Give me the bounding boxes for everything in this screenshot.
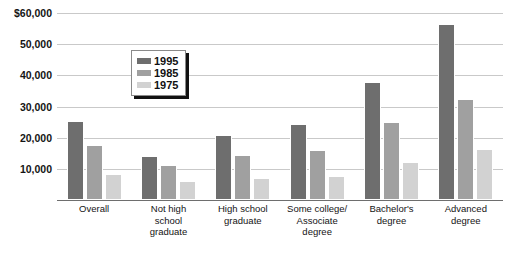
x-axis-line <box>57 200 503 201</box>
bar-1985 <box>457 99 474 200</box>
x-axis-tick-label: Not highschoolgraduate <box>131 203 205 238</box>
legend-item: 1985 <box>137 67 178 79</box>
bar-group <box>206 13 280 200</box>
bar-1985 <box>234 155 251 200</box>
legend-swatch-icon <box>137 70 151 76</box>
legend-item-label: 1985 <box>154 67 178 79</box>
bar-1975 <box>402 162 419 200</box>
bar-groups <box>57 13 503 200</box>
bar-group <box>57 13 131 200</box>
x-axis-tick-label: High schoolgraduate <box>206 203 280 238</box>
y-axis-tick-label: 20,000 <box>0 132 52 144</box>
bar-group <box>131 13 205 200</box>
legend-item-label: 1995 <box>154 55 178 67</box>
cropped-title <box>0 0 510 6</box>
bar-set <box>429 13 503 200</box>
bar-1995 <box>67 121 84 200</box>
bar-1985 <box>160 165 177 200</box>
legend-box: 199519851975 <box>131 50 186 96</box>
y-axis-tick-label: $60,000 <box>0 7 52 19</box>
legend-swatch-icon <box>137 58 151 64</box>
plot-area <box>57 13 503 200</box>
legend-item: 1995 <box>137 55 178 67</box>
x-axis-tick-label: Overall <box>57 203 131 238</box>
bar-1975 <box>105 174 122 200</box>
x-axis-tick-label: Some college/Associatedegree <box>280 203 354 238</box>
bar-chart: $60,00050,00040,00030,00020,00010,000 Ov… <box>0 0 510 255</box>
bar-1975 <box>179 181 196 200</box>
legend-item: 1975 <box>137 79 178 91</box>
y-axis-tick-label: 30,000 <box>0 101 52 113</box>
bar-set <box>280 13 354 200</box>
bar-1985 <box>383 122 400 200</box>
bar-1995 <box>141 156 158 200</box>
bar-1985 <box>86 145 103 200</box>
bar-1995 <box>215 135 232 200</box>
y-axis-tick-label: 50,000 <box>0 38 52 50</box>
bar-1985 <box>309 150 326 200</box>
bar-1995 <box>438 24 455 200</box>
x-axis-tick-label: Advanceddegree <box>429 203 503 238</box>
bar-1975 <box>253 178 270 200</box>
bar-set <box>206 13 280 200</box>
bar-set <box>131 13 205 200</box>
bar-1995 <box>290 124 307 200</box>
bar-set <box>354 13 428 200</box>
bar-1995 <box>364 82 381 200</box>
x-axis-labels: OverallNot highschoolgraduateHigh school… <box>57 203 503 238</box>
y-axis-tick-label: 40,000 <box>0 69 52 81</box>
legend-item-label: 1975 <box>154 79 178 91</box>
x-axis-tick-label: Bachelor'sdegree <box>354 203 428 238</box>
bar-group <box>354 13 428 200</box>
bar-group <box>280 13 354 200</box>
bar-1975 <box>328 176 345 200</box>
legend: 199519851975 <box>131 50 186 96</box>
bar-1975 <box>476 149 493 200</box>
bar-group <box>429 13 503 200</box>
legend-swatch-icon <box>137 82 151 88</box>
bar-set <box>57 13 131 200</box>
y-axis-tick-label: 10,000 <box>0 163 52 175</box>
